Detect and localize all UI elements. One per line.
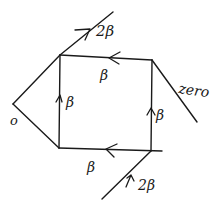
top-edge bbox=[60, 55, 152, 60]
left-lower-line bbox=[13, 104, 59, 148]
left-edge bbox=[59, 55, 60, 148]
bottom-edge bbox=[59, 148, 162, 151]
right-external-label: zero bbox=[177, 80, 211, 100]
bottom-edge-arrow-icon bbox=[106, 144, 117, 157]
top-external-label: 2β bbox=[95, 22, 115, 40]
bottom-external-arrow-icon bbox=[126, 175, 134, 187]
diagram-canvas: 2β β β β β 2β zero o bbox=[0, 0, 224, 218]
left-external-label: o bbox=[10, 113, 18, 128]
top-external-arrow-icon bbox=[75, 29, 90, 40]
flow-diagram: 2β β β β β 2β zero o bbox=[0, 0, 224, 218]
left-upper-line bbox=[13, 55, 60, 104]
right-edge-label: β bbox=[155, 107, 164, 123]
left-edge-label: β bbox=[65, 94, 74, 110]
right-edge bbox=[151, 60, 152, 151]
bottom-external-label: 2β bbox=[137, 177, 155, 193]
top-edge-label: β bbox=[99, 67, 108, 83]
bottom-edge-label: β bbox=[86, 159, 95, 175]
